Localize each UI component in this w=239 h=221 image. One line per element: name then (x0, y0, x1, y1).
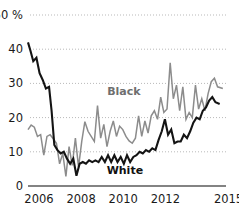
y-axis-tick-labels: 01020304050 % (0, 8, 23, 193)
x-tick-label-2015: 2015 (214, 192, 239, 206)
gridlines (30, 15, 226, 152)
x-axis-tick-labels: 20062008201020122015 (24, 192, 239, 206)
annotation-white: White (107, 164, 143, 177)
chart-container: 01020304050 % 20062008201020122015 Black… (0, 0, 239, 221)
series-line-white (28, 42, 220, 175)
series-annotations: BlackWhite (107, 85, 143, 177)
series-lines (28, 42, 223, 176)
x-tick-label-2008: 2008 (66, 192, 95, 206)
x-tick-label-2006: 2006 (24, 192, 53, 206)
y-tick-label-0: 0 (16, 179, 23, 193)
y-tick-label-50: 50 % (0, 8, 23, 22)
annotation-black: Black (107, 85, 141, 98)
y-tick-label-30: 30 (8, 76, 23, 90)
y-tick-label-10: 10 (8, 145, 23, 159)
line-chart: 01020304050 % 20062008201020122015 Black… (0, 0, 239, 221)
y-tick-label-20: 20 (8, 111, 23, 125)
y-tick-label-40: 40 (8, 42, 23, 56)
x-tick-label-2012: 2012 (151, 192, 180, 206)
x-tick-label-2010: 2010 (109, 192, 138, 206)
